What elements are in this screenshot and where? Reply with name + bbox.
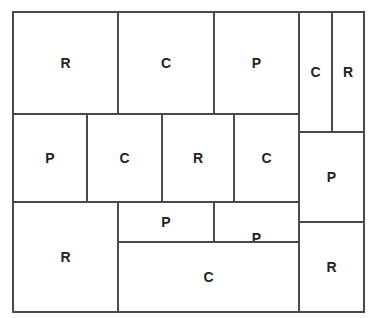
cell-p: P [117,201,215,243]
cell-label: C [203,269,213,285]
cell-p: P [298,131,365,223]
cell-label: C [119,150,129,166]
cell-r: R [12,201,119,313]
cell-r: R [331,11,365,133]
cell-label: R [326,259,336,275]
cell-c: C [298,11,333,133]
cell-c: C [86,113,163,203]
cell-p: P [213,11,300,115]
partition-diagram: RCPCRPCRCPRPRPC [0,0,373,318]
cell-c: C [117,241,300,313]
cell-label: C [161,55,171,71]
cell-label: P [252,55,261,71]
cell-label: P [161,214,170,230]
cell-c: C [233,113,300,203]
cell-label: C [310,64,320,80]
cell-label: R [60,249,70,265]
cell-label: P [45,150,54,166]
cell-r: R [161,113,235,203]
cell-r: R [298,221,365,313]
cell-p: P [12,113,88,203]
cell-c: C [117,11,215,115]
cell-label: P [327,169,336,185]
cell-r: R [12,11,119,115]
cell-label: R [60,55,70,71]
cell-label: C [261,150,271,166]
cell-label: R [343,64,353,80]
cell-label: R [193,150,203,166]
